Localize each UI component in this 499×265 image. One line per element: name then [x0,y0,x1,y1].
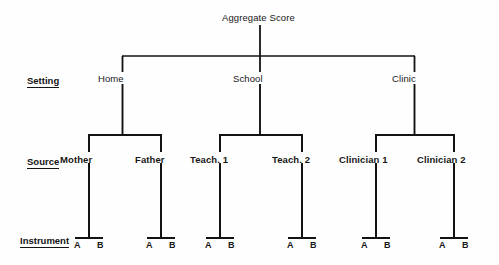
source-node-teach-2: Teach. 2 [272,155,310,165]
instrument-node-clinician2-b: B [462,241,469,250]
source-node-father: Father [135,155,165,165]
setting-node-home: Home [98,74,124,84]
instrument-node-teach1-b: B [228,241,235,250]
setting-node-clinic: Clinic [392,74,416,84]
source-node-mother: Mother [60,155,92,165]
diagram-canvas: Aggregate Score Setting Source Instrumen… [0,0,499,265]
row-label-instrument: Instrument [20,236,69,248]
root-node-aggregate-score: Aggregate Score [222,13,295,23]
instrument-node-clinician1-b: B [384,241,391,250]
instrument-node-mother-a: A [74,241,81,250]
instrument-node-clinician1-a: A [361,241,368,250]
source-node-clinician-1: Clinician 1 [339,155,388,165]
tree-connector-lines [0,0,499,265]
instrument-node-teach2-a: A [287,241,294,250]
instrument-node-mother-b: B [97,241,104,250]
instrument-node-teach1-a: A [205,241,212,250]
setting-node-school: School [233,74,263,84]
instrument-node-father-b: B [169,241,176,250]
row-label-source: Source [27,157,59,169]
instrument-node-teach2-b: B [310,241,317,250]
instrument-node-father-a: A [146,241,153,250]
instrument-node-clinician2-a: A [439,241,446,250]
source-node-teach-1: Teach. 1 [190,155,228,165]
source-node-clinician-2: Clinician 2 [417,155,466,165]
row-label-setting: Setting [27,76,59,88]
